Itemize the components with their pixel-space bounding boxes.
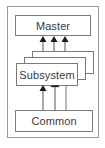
subsystem-label: Subsystem xyxy=(19,69,74,81)
common-label: Common xyxy=(31,115,76,127)
diagram-canvas: Subsystem Master Common xyxy=(0,0,105,148)
common-box: Common xyxy=(15,110,93,132)
master-label: Master xyxy=(36,20,70,32)
master-box: Master xyxy=(15,15,91,36)
subsystem-box: Subsystem xyxy=(16,63,78,86)
